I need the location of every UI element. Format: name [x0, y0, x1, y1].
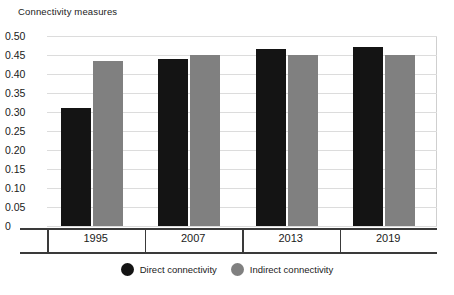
y-axis-tick-label: 0.40	[5, 68, 47, 80]
legend-swatch-indirect-icon	[231, 263, 244, 276]
chart-legend: Direct connectivityIndirect connectivity	[0, 263, 454, 276]
bar-chart: Connectivity measures 0.500.450.400.350.…	[0, 0, 454, 295]
x-axis-tick-label: 2013	[242, 232, 340, 244]
bar	[61, 108, 91, 226]
y-axis-tick-label: 0.45	[5, 49, 47, 61]
legend-label: Indirect connectivity	[250, 264, 333, 275]
chart-title: Connectivity measures	[18, 6, 117, 17]
legend-swatch-direct-icon	[121, 263, 134, 276]
y-axis-tick-labels: 0.500.450.400.350.300.250.200.150.100.05…	[3, 36, 47, 226]
legend-item: Indirect connectivity	[231, 263, 333, 276]
bar	[158, 59, 188, 226]
x-axis-tick-label: 2019	[340, 232, 438, 244]
y-axis-tick-label: 0.50	[5, 30, 47, 42]
x-axis-tick-label: 2007	[145, 232, 243, 244]
y-axis-tick-label: 0.05	[5, 201, 47, 213]
legend-item: Direct connectivity	[121, 263, 217, 276]
bar	[385, 55, 415, 226]
y-axis-tick-label: 0.15	[5, 163, 47, 175]
legend-label: Direct connectivity	[140, 264, 217, 275]
x-axis-tick-label: 1995	[47, 232, 145, 244]
bar	[256, 49, 286, 226]
x-axis-line	[20, 228, 437, 230]
y-axis-tick-label: 0.30	[5, 106, 47, 118]
y-axis-tick-label: 0	[5, 220, 47, 232]
y-axis-tick-label: 0.25	[5, 125, 47, 137]
gridline	[47, 226, 437, 227]
plot-area	[47, 36, 437, 226]
x-axis-bottom-line	[20, 252, 437, 254]
bar	[353, 47, 383, 226]
bar	[93, 61, 123, 226]
gridline	[47, 36, 437, 37]
y-axis-tick-label: 0.35	[5, 87, 47, 99]
bar	[288, 55, 318, 226]
y-axis-tick-label: 0.10	[5, 182, 47, 194]
bar	[190, 55, 220, 226]
y-axis-tick-label: 0.20	[5, 144, 47, 156]
